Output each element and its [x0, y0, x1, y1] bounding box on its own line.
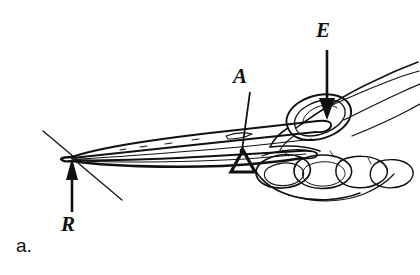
- resistance-label: R: [61, 214, 75, 235]
- effort-label: E: [316, 20, 330, 41]
- axis-label: A: [233, 66, 247, 87]
- figure-panel: E A R a.: [0, 0, 420, 275]
- panel-caption-label: a.: [16, 236, 32, 255]
